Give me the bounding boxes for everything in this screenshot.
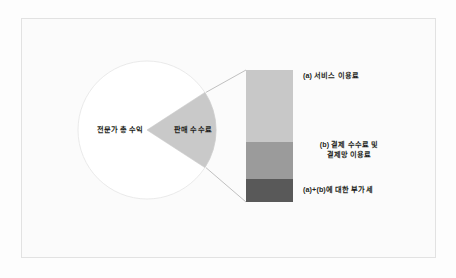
pie-exploded-slice-label: 판매 수수료 (162, 125, 224, 135)
bar-label-vat: (a)+(b)에 대한 부가세 (303, 185, 373, 195)
stacked-bar (246, 70, 293, 202)
figure-container: 전문가 총 수익 판매 수수료 (a) 서비스 이용료 (b) 결제 수수료 및… (0, 0, 456, 278)
bar-label-payment-fee-line2: 결제망 이용료 (327, 150, 372, 159)
connector-line-top (206, 70, 246, 92)
bar-segment-service-fee[interactable] (246, 70, 293, 142)
pie-main-slice-label: 전문가 총 수익 (85, 125, 155, 135)
bar-segment-vat[interactable] (246, 179, 293, 202)
bar-label-payment-fee: (b) 결제 수수료 및 결제망 이용료 (303, 140, 395, 160)
bar-segment-payment-fee[interactable] (246, 142, 293, 179)
chart-canvas (0, 0, 456, 278)
bar-label-service-fee: (a) 서비스 이용료 (303, 71, 359, 81)
bar-label-payment-fee-line1: (b) 결제 수수료 및 (320, 140, 378, 149)
connector-line-bottom (206, 168, 246, 202)
